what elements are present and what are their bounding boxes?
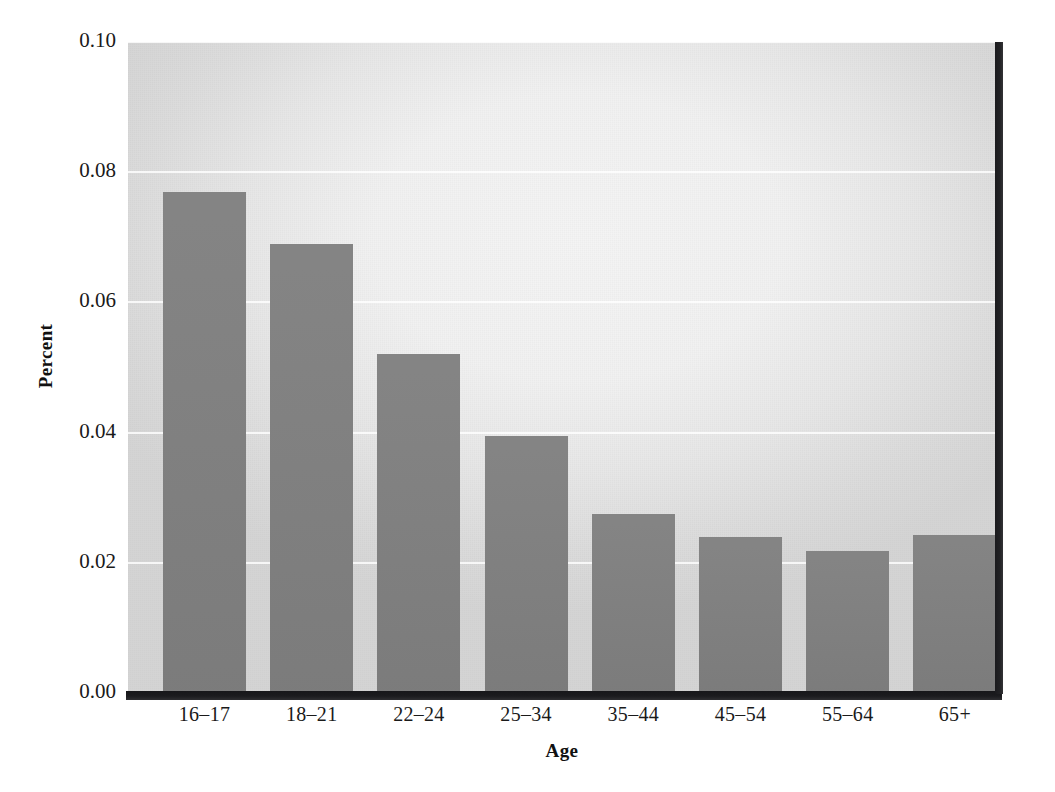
x-tick-label: 45–54 [681, 703, 801, 726]
x-axis-line [126, 691, 1002, 700]
bar-55-64[interactable] [806, 551, 889, 693]
y-tick-label: 0.08 [8, 158, 116, 183]
x-tick-label: 16–17 [145, 703, 265, 726]
bar-chart-figure: 0.000.020.040.060.080.10 16–1718–2122–24… [0, 0, 1055, 792]
x-axis-title: Age [128, 740, 996, 762]
bar-16-17[interactable] [163, 192, 246, 693]
y-tick-label: 0.10 [8, 28, 116, 53]
gridline [128, 171, 996, 173]
y-tick-label: 0.00 [8, 679, 116, 704]
gridline [128, 42, 996, 43]
plot-right-border [995, 42, 1003, 694]
bar-65-[interactable] [913, 535, 996, 693]
x-tick-label: 22–24 [359, 703, 479, 726]
bar-45-54[interactable] [699, 537, 782, 693]
y-tick-label: 0.06 [8, 288, 116, 313]
x-tick-label: 65+ [895, 703, 1015, 726]
bar-35-44[interactable] [592, 514, 675, 693]
bar-22-24[interactable] [377, 354, 460, 693]
gridline [128, 432, 996, 434]
bar-25-34[interactable] [485, 436, 568, 693]
y-axis-title: Percent [35, 286, 57, 426]
plot-area [128, 42, 996, 693]
bar-18-21[interactable] [270, 244, 353, 693]
x-tick-label: 35–44 [573, 703, 693, 726]
x-tick-label: 25–34 [466, 703, 586, 726]
x-tick-label: 55–64 [788, 703, 908, 726]
y-tick-label: 0.04 [8, 419, 116, 444]
gridline [128, 301, 996, 303]
y-tick-label: 0.02 [8, 549, 116, 574]
x-tick-label: 18–21 [252, 703, 372, 726]
